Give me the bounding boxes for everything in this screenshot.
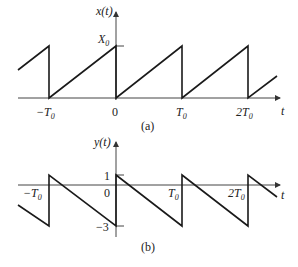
peak-label: X0 (97, 32, 109, 48)
origin-label-b: 0 (104, 186, 110, 200)
plot-b: y(t) 1 0 −3 t −T0 T0 2T0 (b) (18, 135, 285, 254)
y-label-b: y(t) (93, 135, 111, 149)
tick-a-neg-T0: −T0 (36, 105, 55, 121)
plot-a: x(t) X0 t −T0 0 T0 2T0 (a) (18, 4, 285, 133)
level-neg3-label: −3 (96, 220, 109, 234)
caption-b: (b) (141, 240, 155, 254)
y-label-a: x(t) (95, 4, 113, 18)
tick-a-2T0: 2T0 (236, 105, 253, 121)
level-1-label: 1 (104, 169, 110, 183)
sawtooth-y (18, 175, 277, 226)
sawtooth-x (18, 46, 277, 98)
tick-b-T0: T0 (168, 186, 179, 202)
tick-b-2T0: 2T0 (228, 186, 245, 202)
caption-a: (a) (141, 119, 154, 133)
x-label-a: t (281, 104, 285, 118)
x-label-b: t (281, 188, 285, 202)
figure-canvas: x(t) X0 t −T0 0 T0 2T0 (a) y(t) 1 0 −3 t… (0, 0, 298, 267)
tick-a-T0: T0 (176, 105, 187, 121)
tick-b-neg-T0: −T0 (23, 186, 42, 202)
tick-a-zero: 0 (112, 105, 118, 119)
